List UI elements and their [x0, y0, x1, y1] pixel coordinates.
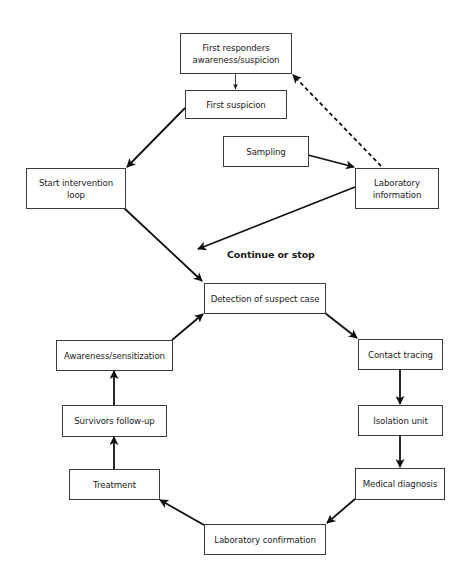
node-awareness-sensitization: Awareness/sensitization [56, 340, 173, 371]
edge-lab-info-to-continue [198, 187, 355, 249]
node-survivors-label: Survivors follow-up [74, 415, 154, 427]
node-sampling: Sampling [223, 136, 309, 167]
node-contact-tracing-label: Contact tracing [368, 349, 433, 361]
edge-suspicion-to-start [127, 108, 185, 167]
node-awareness-label: Awareness/sensitization [64, 350, 165, 362]
node-survivors-follow-up: Survivors follow-up [62, 405, 167, 437]
node-first-suspicion: First suspicion [185, 90, 287, 119]
edge-lab-confirmation-to-treatment [160, 500, 204, 525]
node-start-intervention-loop: Start intervention loop [26, 168, 126, 209]
node-treatment: Treatment [69, 469, 160, 500]
node-sampling-label: Sampling [246, 146, 285, 158]
node-treatment-label: Treatment [93, 479, 136, 491]
node-lab-info-line1: Laboratory [374, 177, 420, 189]
node-first-responders-line2: awareness/suspicion [193, 54, 280, 66]
node-detection-of-suspect-case: Detection of suspect case [204, 283, 326, 314]
node-medical-diagnosis: Medical diagnosis [355, 468, 445, 500]
edge-start-to-detection [124, 208, 202, 281]
continue-or-stop-label: Continue or stop [227, 249, 315, 260]
edge-awareness-to-detection [172, 314, 203, 340]
node-isolation-unit: Isolation unit [358, 405, 443, 436]
node-isolation-label: Isolation unit [373, 415, 427, 427]
edge-detection-to-contact [325, 313, 357, 338]
node-start-intervention-line1: Start intervention [39, 177, 113, 189]
node-medical-diagnosis-label: Medical diagnosis [363, 478, 438, 490]
node-lab-confirmation-label: Laboratory confirmation [214, 534, 316, 546]
node-first-suspicion-label: First suspicion [206, 99, 265, 111]
edge-diagnosis-to-lab-confirmation [327, 499, 355, 523]
node-contact-tracing: Contact tracing [358, 339, 443, 370]
node-start-intervention-line2: loop [67, 189, 85, 201]
edge-sampling-to-lab-info [308, 155, 354, 167]
node-laboratory-confirmation: Laboratory confirmation [204, 524, 326, 555]
node-first-responders: First responders awareness/suspicion [180, 33, 292, 74]
node-first-responders-line1: First responders [202, 42, 269, 54]
node-laboratory-information: Laboratory information [355, 168, 439, 209]
node-detection-label: Detection of suspect case [211, 293, 320, 305]
node-lab-info-line2: information [373, 189, 422, 201]
intervention-loop-diagram: First responders awareness/suspicion Fir… [0, 0, 469, 583]
